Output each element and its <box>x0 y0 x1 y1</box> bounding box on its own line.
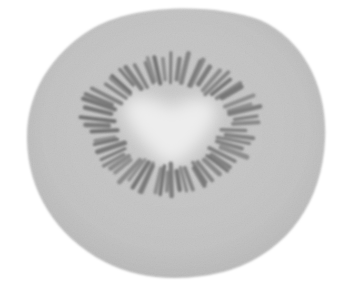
kiwi-seed <box>163 59 165 80</box>
kiwi-seed <box>171 164 172 196</box>
kiwi-seed <box>86 125 109 126</box>
kiwi-slice-illustration <box>0 0 355 297</box>
kiwi-seed <box>167 172 168 191</box>
kiwi-seed <box>233 122 258 124</box>
kiwi-seed <box>177 171 180 190</box>
kiwi-seed <box>221 130 246 131</box>
kiwi-seed <box>92 130 118 131</box>
kiwi-seed <box>177 59 180 80</box>
kiwi-photo <box>0 0 355 297</box>
